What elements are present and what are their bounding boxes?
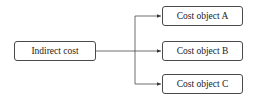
- cost-object-c-label: Cost object C: [177, 79, 229, 89]
- indirect-cost-label: Indirect cost: [31, 46, 78, 56]
- cost-object-b-node: Cost object B: [162, 41, 243, 61]
- cost-object-b-label: Cost object B: [177, 46, 229, 56]
- indirect-cost-node: Indirect cost: [14, 41, 96, 61]
- cost-object-a-node: Cost object A: [162, 6, 243, 26]
- cost-object-a-label: Cost object A: [177, 11, 229, 21]
- cost-object-c-node: Cost object C: [162, 74, 243, 94]
